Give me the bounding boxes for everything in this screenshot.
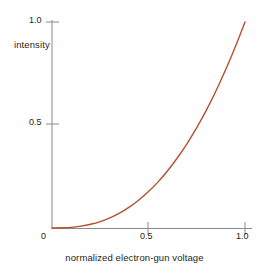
y-tick-label-1: 1.0 (29, 15, 42, 25)
x-tick-label-0-5: 0.5 (140, 231, 153, 241)
chart-container: intensity normalized electron-gun voltag… (0, 0, 269, 270)
x-axis-label: normalized electron-gun voltage (65, 252, 203, 263)
y-axis-label: intensity (14, 39, 50, 50)
x-tick-label-0: 0 (41, 231, 46, 241)
x-tick-label-1: 1.0 (236, 231, 249, 241)
data-curve-gamma-response (52, 22, 245, 228)
y-tick-label-0-5: 0.5 (29, 117, 42, 127)
